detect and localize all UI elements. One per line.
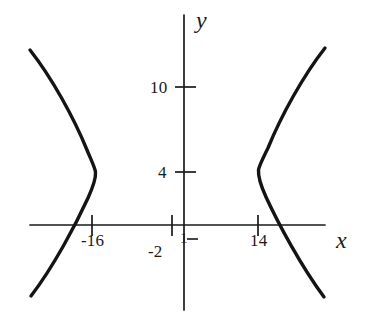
x-tick-label-one: 1 — [180, 231, 188, 246]
y-tick-label-4: 4 — [158, 164, 167, 181]
y-tick-label-10: 10 — [150, 79, 167, 96]
y-axis-ticks — [175, 87, 196, 172]
y-axis-label: y — [196, 8, 207, 32]
right-branch-curve — [258, 48, 325, 297]
x-tick-label-neg2: -2 — [148, 243, 163, 260]
x-axis-ticks — [92, 215, 258, 239]
hyperbola-plot-figure: 10 4 -16 -2 1 14 y x — [0, 0, 367, 317]
x-tick-label-14: 14 — [250, 232, 267, 249]
left-branch-curve — [30, 50, 96, 296]
axis-lines — [30, 15, 325, 310]
plot-canvas — [0, 0, 367, 317]
x-axis-label: x — [336, 228, 347, 252]
x-tick-label-neg16: -16 — [81, 232, 104, 249]
